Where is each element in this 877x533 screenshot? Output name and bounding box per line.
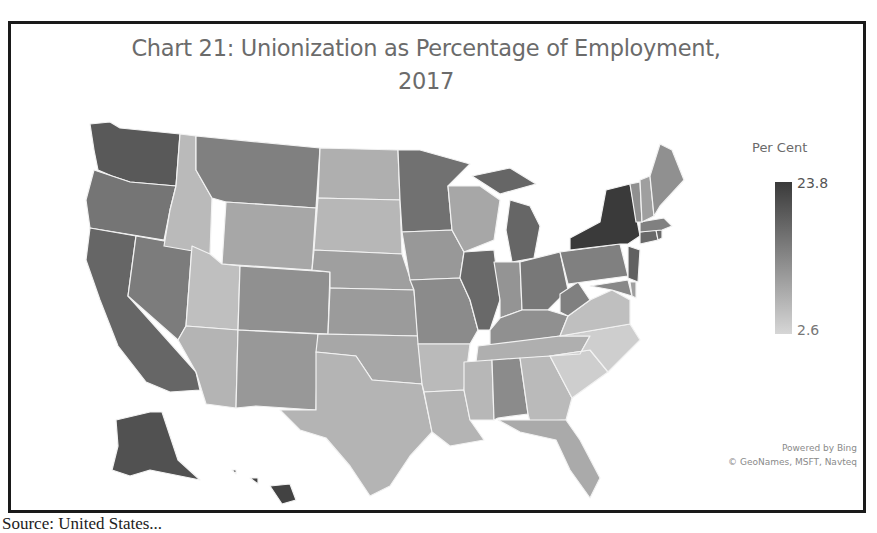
legend-title: Per Cent [752, 140, 807, 155]
legend-min-label: 2.6 [797, 322, 819, 338]
powered-by-bing: Powered by Bing [728, 441, 857, 455]
legend-gradient-bar [775, 182, 792, 334]
source-caption: Source: United States... [2, 514, 162, 533]
state-hi [232, 470, 296, 504]
state-nd [318, 148, 400, 200]
state-co [238, 266, 330, 334]
legend-max-label: 23.8 [797, 175, 828, 191]
map-attribution: Powered by Bing © GeoNames, MSFT, Navteq [728, 441, 857, 469]
state-ar [418, 344, 470, 392]
state-ms [464, 360, 494, 420]
state-wy [222, 202, 316, 270]
state-fl [498, 420, 600, 498]
state-ny [570, 184, 640, 250]
state-ak [112, 412, 200, 480]
state-ia [402, 230, 464, 280]
state-nm [236, 330, 318, 410]
copyright-text: © GeoNames, MSFT, Navteq [728, 455, 857, 469]
state-nj [628, 246, 640, 282]
state-mt [196, 136, 320, 208]
state-sd [314, 198, 402, 254]
state-ks [328, 288, 418, 336]
state-in [494, 262, 522, 318]
state-me [650, 144, 684, 216]
